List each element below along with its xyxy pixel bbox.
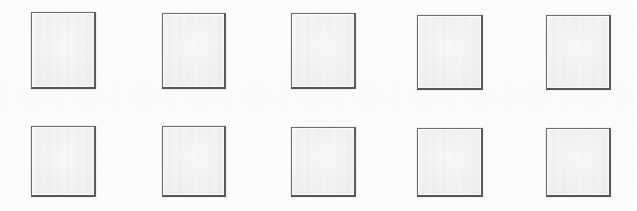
card-1[interactable] [31,12,96,89]
card-3[interactable] [291,13,356,89]
card-4[interactable] [417,15,483,90]
card-5[interactable] [546,15,611,90]
card-6[interactable] [31,126,96,197]
card-10[interactable] [546,128,611,197]
card-7[interactable] [162,126,226,197]
card-2[interactable] [162,13,226,89]
scanned-sheet [0,0,637,211]
card-8[interactable] [291,127,356,197]
card-9[interactable] [417,128,483,197]
